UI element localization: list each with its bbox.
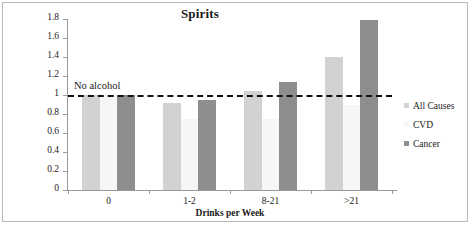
x-tick-mark xyxy=(311,190,312,194)
legend-item[interactable]: All Causes xyxy=(404,96,468,115)
x-tick-mark xyxy=(392,190,393,194)
bar xyxy=(181,119,199,190)
y-tick-mark xyxy=(63,133,67,134)
y-tick-label: 1.6 xyxy=(19,31,59,41)
no-alcohol-annotation-label: No alcohol xyxy=(74,80,120,91)
no-alcohol-reference-line xyxy=(68,95,392,97)
plot-area xyxy=(68,19,392,190)
y-tick-label: 1.4 xyxy=(19,50,59,60)
y-tick-mark xyxy=(63,57,67,58)
legend-label: Cancer xyxy=(413,139,440,149)
x-axis-line xyxy=(67,190,397,191)
y-tick-mark xyxy=(63,95,67,96)
bar xyxy=(198,100,216,190)
y-tick-label: 0.6 xyxy=(19,126,59,136)
y-tick-label: 0.4 xyxy=(19,145,59,155)
x-tick-label: >21 xyxy=(317,196,387,206)
y-tick-mark xyxy=(63,114,67,115)
bar xyxy=(325,57,343,190)
y-tick-label: 1.2 xyxy=(19,69,59,79)
x-tick-label: 0 xyxy=(74,196,144,206)
legend-swatch-icon xyxy=(404,141,409,146)
legend-label: CVD xyxy=(413,120,433,130)
bar xyxy=(262,119,280,190)
bar xyxy=(117,95,135,190)
y-tick-mark xyxy=(63,171,67,172)
bar xyxy=(244,91,262,190)
y-tick-label: 1.8 xyxy=(19,12,59,22)
legend-label: All Causes xyxy=(413,101,454,111)
y-tick-label: 0.8 xyxy=(19,107,59,117)
x-tick-label: 8-21 xyxy=(236,196,306,206)
x-tick-mark xyxy=(68,190,69,194)
bar xyxy=(360,20,378,190)
bar xyxy=(100,95,118,190)
y-tick-mark xyxy=(63,152,67,153)
x-axis-title: Drinks per Week xyxy=(68,208,392,218)
bar xyxy=(279,82,297,190)
spirits-relative-risk-chart: Spirits Relative Risk 00.20.40.60.811.21… xyxy=(0,0,471,227)
legend-item[interactable]: Cancer xyxy=(404,134,468,153)
legend-item[interactable]: CVD xyxy=(404,115,468,134)
legend-swatch-icon xyxy=(404,122,409,127)
bar xyxy=(343,105,361,191)
bar xyxy=(163,103,181,190)
x-tick-label: 1-2 xyxy=(155,196,225,206)
y-tick-mark xyxy=(63,190,67,191)
y-tick-label: 1 xyxy=(19,88,59,98)
x-tick-mark xyxy=(149,190,150,194)
bar xyxy=(82,95,100,190)
y-tick-mark xyxy=(63,19,67,20)
y-tick-label: 0 xyxy=(19,183,59,193)
legend-swatch-icon xyxy=(404,103,409,108)
y-tick-mark xyxy=(63,76,67,77)
x-tick-mark xyxy=(230,190,231,194)
chart-legend: All CausesCVDCancer xyxy=(404,96,468,153)
y-tick-mark xyxy=(63,38,67,39)
y-tick-label: 0.2 xyxy=(19,164,59,174)
